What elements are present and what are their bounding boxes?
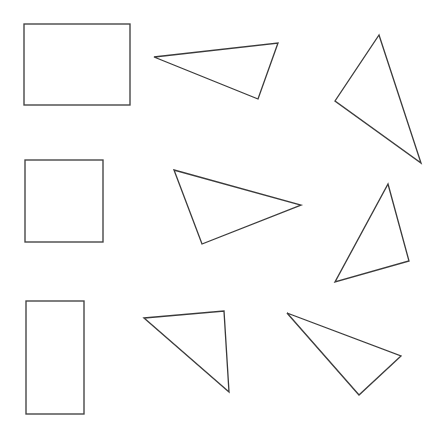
triangle-bottom-right [287,313,401,395]
triangle-top-right [335,35,421,163]
shapes-canvas [0,0,443,422]
square [25,160,103,242]
rectangle-wide [24,24,130,105]
triangle-top-middle [154,43,278,99]
triangle-middle-center [174,170,301,244]
rectangle-tall [26,301,84,414]
triangle-middle-right [335,184,409,282]
triangle-bottom-middle [144,311,229,392]
